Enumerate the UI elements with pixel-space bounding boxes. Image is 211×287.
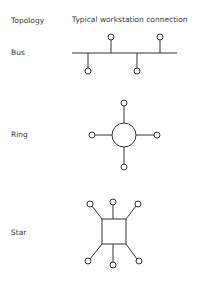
bus-diagram	[72, 34, 177, 74]
topology-diagram	[0, 0, 211, 287]
star-diagram	[85, 199, 142, 268]
ring-diagram	[89, 100, 160, 170]
